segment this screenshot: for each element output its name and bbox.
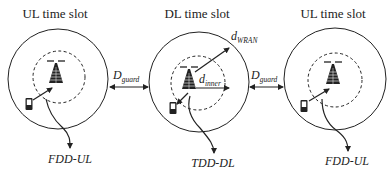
right-tower-icon — [324, 62, 342, 84]
d-wran-radius-arrow — [195, 48, 229, 72]
guard-distance-left-label: Dguard — [112, 68, 140, 84]
right-link-label: FDD-UL — [324, 154, 369, 168]
left-phone-icon — [26, 98, 33, 110]
title-left-ul-time-slot: UL time slot — [22, 6, 88, 21]
left-link-label: FDD-UL — [47, 152, 92, 166]
middle-phone-icon — [170, 102, 177, 114]
left-label-pointer-arrow — [46, 99, 70, 148]
guard-distance-right-label: Dguard — [250, 68, 278, 84]
d-inner-label: dinner — [199, 72, 221, 88]
diagram-canvas: UL time slot DL time slot UL time slot F… — [0, 0, 391, 179]
middle-label-pointer-arrow — [189, 96, 214, 153]
middle-cell: dWRAN dinner TDD-DL — [149, 29, 258, 170]
left-tower-icon — [47, 61, 65, 83]
right-cell: FDD-UL — [284, 28, 386, 168]
guard-distance-left: Dguard — [110, 68, 148, 87]
right-phone-icon — [301, 100, 308, 112]
middle-tower-icon — [180, 67, 198, 89]
title-middle-dl-time-slot: DL time slot — [164, 6, 230, 21]
middle-downlink-arrow — [177, 93, 188, 104]
middle-link-label: TDD-DL — [191, 156, 235, 170]
guard-distance-right: Dguard — [250, 68, 283, 87]
title-right-ul-time-slot: UL time slot — [300, 6, 366, 21]
left-cell: FDD-UL — [8, 29, 108, 166]
d-wran-label: dWRAN — [231, 29, 258, 45]
right-label-pointer-arrow — [322, 99, 348, 151]
